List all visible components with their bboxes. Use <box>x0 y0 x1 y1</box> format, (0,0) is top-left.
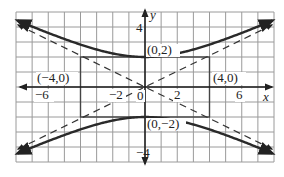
x-axis-label: x <box>262 89 269 104</box>
vertex-label-bottom: (0,−2) <box>147 116 179 131</box>
hyperbola-graph: (0,2) (0,−2) (−4,0) (4,0) −6 −2 0 2 6 4 … <box>0 0 284 177</box>
x-tick-label: −6 <box>35 87 49 102</box>
y-tick-label: 4 <box>136 20 143 35</box>
y-tick-label: −4 <box>136 145 150 160</box>
origin-label: 0 <box>137 88 144 103</box>
point-label-left: (−4,0) <box>37 70 69 85</box>
point-label-right: (4,0) <box>213 70 238 85</box>
y-axis-label: y <box>148 7 156 22</box>
vertex-label-top: (0,2) <box>147 42 172 57</box>
x-tick-label: −2 <box>109 87 123 102</box>
x-tick-label: 6 <box>236 87 243 102</box>
x-tick-label: 2 <box>174 87 181 102</box>
